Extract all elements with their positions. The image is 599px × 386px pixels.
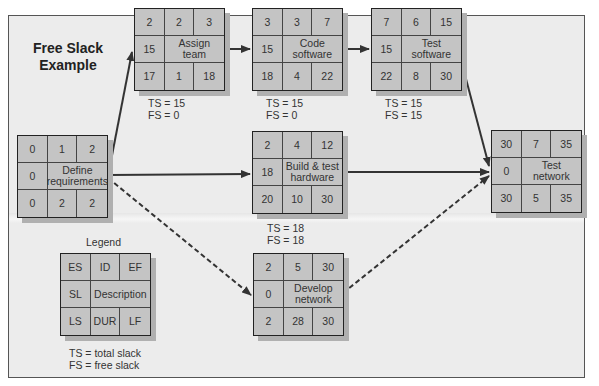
node-develop-network: 2 5 30 0 Develop network 2 28 30 [253, 253, 344, 336]
node-test-network: 30 7 35 0 Test network 30 5 35 [491, 130, 582, 213]
free-slack: FS = 15 [385, 109, 422, 121]
total-slack: TS = 15 [148, 97, 185, 109]
node-es: 2 [135, 9, 165, 36]
node-es: 7 [372, 9, 402, 36]
node-ef: 7 [312, 9, 342, 36]
total-slack: TS = 18 [267, 222, 304, 234]
node-sl: 0 [18, 163, 48, 190]
free-slack: FS = 0 [266, 109, 303, 121]
node-ls: 2 [254, 308, 284, 335]
node-lf: 30 [431, 63, 461, 90]
node-description: Develop network [284, 281, 343, 308]
slack-test-software: TS = 15 FS = 15 [385, 97, 422, 121]
node-ls: 20 [253, 186, 283, 213]
node-dur: 8 [402, 63, 432, 90]
legend-ls: LS [61, 308, 91, 335]
node-ef: 30 [313, 254, 343, 281]
free-slack: FS = 0 [148, 109, 185, 121]
legend-es: ES [61, 254, 91, 281]
node-sl: 15 [253, 36, 283, 63]
node-id: 3 [283, 9, 313, 36]
node-define-requirements: 0 1 2 0 Define requirements 0 2 2 [17, 135, 108, 218]
node-sl: 18 [253, 159, 283, 186]
node-es: 3 [253, 9, 283, 36]
legend-definitions: TS = total slack FS = free slack [69, 347, 141, 371]
node-description: Build & test hardware [283, 159, 342, 186]
slack-build-test-hardware: TS = 18 FS = 18 [267, 222, 304, 246]
node-lf: 2 [77, 190, 107, 217]
node-id: 6 [402, 9, 432, 36]
node-dur: 1 [165, 63, 195, 90]
node-lf: 18 [194, 63, 224, 90]
node-es: 0 [18, 136, 48, 163]
node-es: 30 [492, 131, 522, 158]
slack-assign-team: TS = 15 FS = 0 [148, 97, 185, 121]
legend-description: Description [91, 281, 150, 308]
legend-dur: DUR [91, 308, 121, 335]
node-sl: 0 [492, 158, 522, 185]
node-dur: 2 [48, 190, 78, 217]
node-ef: 15 [431, 9, 461, 36]
legend-ts-definition: TS = total slack [69, 347, 141, 359]
edge-define-build [108, 174, 250, 175]
edge-develop-testnet [343, 176, 489, 293]
node-sl: 15 [372, 36, 402, 63]
free-slack: FS = 18 [267, 234, 304, 246]
node-assign-team: 2 2 3 15 Assign team 17 1 18 [134, 8, 225, 91]
legend-title: Legend [86, 236, 121, 248]
node-es: 2 [254, 254, 284, 281]
node-code-software: 3 3 7 15 Code software 18 4 22 [252, 8, 343, 91]
node-description: Define requirements [48, 163, 107, 190]
node-id: 1 [48, 136, 78, 163]
node-lf: 30 [312, 186, 342, 213]
node-id: 7 [522, 131, 552, 158]
legend-ef: EF [120, 254, 150, 281]
node-description: Test software [402, 36, 461, 63]
legend-sl: SL [61, 281, 91, 308]
node-es: 2 [253, 132, 283, 159]
node-description: Assign team [165, 36, 224, 63]
total-slack: TS = 15 [266, 97, 303, 109]
node-dur: 10 [283, 186, 313, 213]
node-sl: 15 [135, 36, 165, 63]
node-ef: 3 [194, 9, 224, 36]
edge-testsw-testnet [461, 60, 489, 166]
legend-lf: LF [120, 308, 150, 335]
node-id: 4 [283, 132, 313, 159]
node-dur: 4 [283, 63, 313, 90]
node-ls: 17 [135, 63, 165, 90]
node-ls: 18 [253, 63, 283, 90]
total-slack: TS = 15 [385, 97, 422, 109]
node-lf: 35 [551, 185, 581, 212]
node-dur: 28 [284, 308, 314, 335]
node-build-test-hardware: 2 4 12 18 Build & test hardware 20 10 30 [252, 131, 343, 214]
node-dur: 5 [522, 185, 552, 212]
legend-fs-definition: FS = free slack [69, 359, 141, 371]
node-id: 2 [165, 9, 195, 36]
slack-code-software: TS = 15 FS = 0 [266, 97, 303, 121]
node-id: 5 [284, 254, 314, 281]
node-ef: 35 [551, 131, 581, 158]
legend-node: ES ID EF SL Description LS DUR LF [60, 253, 151, 336]
node-sl: 0 [254, 281, 284, 308]
node-test-software: 7 6 15 15 Test software 22 8 30 [371, 8, 462, 91]
node-description: Code software [283, 36, 342, 63]
legend-id: ID [91, 254, 121, 281]
node-description: Test network [522, 158, 581, 185]
node-ef: 2 [77, 136, 107, 163]
node-ls: 30 [492, 185, 522, 212]
node-ef: 12 [312, 132, 342, 159]
node-lf: 22 [312, 63, 342, 90]
node-ls: 0 [18, 190, 48, 217]
edge-define-assign [108, 52, 132, 176]
node-ls: 22 [372, 63, 402, 90]
node-lf: 30 [313, 308, 343, 335]
